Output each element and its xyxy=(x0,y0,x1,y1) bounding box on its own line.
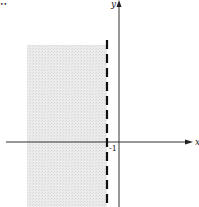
boundary-tick-label: -1 xyxy=(109,144,117,153)
y-axis-label: y xyxy=(110,0,117,9)
x-axis-label: x xyxy=(195,137,199,147)
corner-mark: •• xyxy=(0,0,7,7)
y-axis-arrow-icon xyxy=(117,0,122,7)
x-axis-arrow-icon xyxy=(185,140,193,145)
shaded-region xyxy=(27,45,107,207)
inequality-graph: y x -1 •• xyxy=(0,0,199,207)
